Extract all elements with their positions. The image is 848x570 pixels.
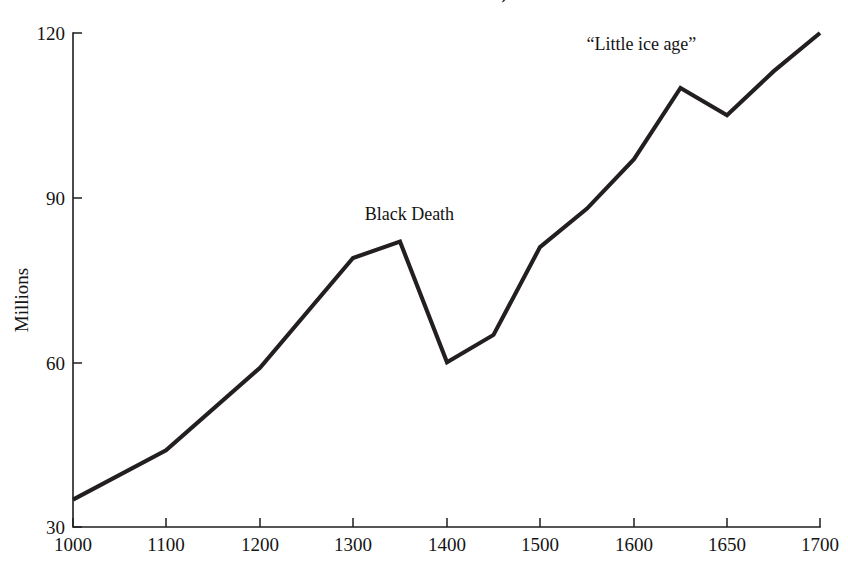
x-tick-label-1100: 1100 — [147, 534, 184, 555]
y-axis-ticks — [73, 33, 82, 527]
axis-lines — [73, 33, 820, 527]
x-tick-label-1650: 1650 — [708, 534, 746, 555]
y-tick-label-60: 60 — [46, 353, 65, 374]
x-tick-label-1400: 1400 — [428, 534, 466, 555]
y-tick-label-120: 120 — [37, 23, 66, 44]
chart-canvas: 120 90 60 30 Millions 1000 1100 1200 130… — [0, 0, 848, 570]
population-line-chart: of the Ural Mountains) 120 90 60 30 Mill… — [0, 0, 848, 570]
x-tick-label-1200: 1200 — [241, 534, 279, 555]
y-axis-title: Millions — [11, 268, 32, 332]
x-tick-label-1500: 1500 — [521, 534, 559, 555]
x-tick-label-1300: 1300 — [334, 534, 372, 555]
x-tick-label-1000: 1000 — [54, 534, 92, 555]
x-tick-label-1700: 1700 — [801, 534, 839, 555]
x-axis-ticks — [73, 518, 820, 527]
population-series-line — [73, 33, 820, 500]
y-tick-label-90: 90 — [46, 188, 65, 209]
annotation-black-death: Black Death — [365, 204, 454, 224]
x-tick-label-1600: 1600 — [615, 534, 653, 555]
annotation-little-ice-age: “Little ice age” — [586, 34, 696, 54]
